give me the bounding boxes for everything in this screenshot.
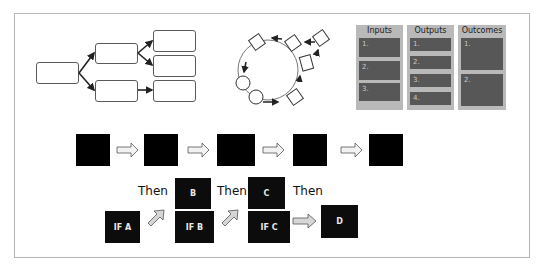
diagonal-arrow-icon — [148, 210, 164, 226]
diagonal-arrow-icon — [222, 210, 238, 226]
right-arrow-icon — [293, 214, 316, 228]
if-then-arrows — [0, 0, 542, 269]
